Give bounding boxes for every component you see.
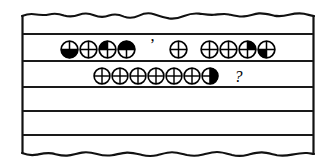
circle-cross-empty	[147, 67, 165, 85]
symbol-line-2: ?	[0, 64, 336, 88]
circle-cross-upper-right-filled	[238, 40, 257, 59]
circle-cross-empty	[219, 40, 238, 59]
page-root: ’ ?	[0, 0, 336, 167]
punctuation-question: ?	[231, 69, 244, 85]
line-1-word-1	[60, 40, 136, 59]
circle-cross-empty	[169, 40, 188, 59]
glyph-filled-sector	[99, 41, 107, 49]
circle-cross-top-half-filled	[117, 40, 136, 59]
line-2-word-1	[93, 67, 219, 85]
circle-cross-upper-left-filled	[98, 40, 117, 59]
circle-cross-empty	[129, 67, 147, 85]
circle-cross-empty	[200, 40, 219, 59]
glyph-filled-sector	[258, 49, 266, 57]
glyph-filled-sector	[248, 41, 256, 49]
punctuation-apostrophe: ’	[148, 37, 157, 53]
circle-cross-bottom-half-filled	[60, 40, 79, 59]
circle-cross-empty	[165, 67, 183, 85]
circle-cross-empty	[111, 67, 129, 85]
line-1-word-3	[200, 40, 276, 59]
circle-cross-lower-left-filled	[257, 40, 276, 59]
circle-cross-empty	[183, 67, 201, 85]
symbol-line-1: ’	[0, 37, 336, 61]
circle-cross-right-half-filled	[201, 67, 219, 85]
line-1-word-2	[169, 40, 188, 59]
circle-cross-empty	[93, 67, 111, 85]
circle-cross-empty	[79, 40, 98, 59]
